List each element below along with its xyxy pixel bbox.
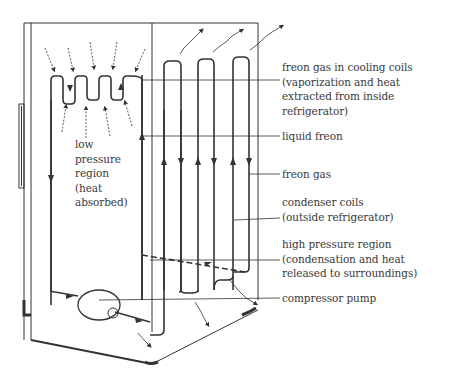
compressor-pump (78, 290, 120, 320)
refrigerator-diagram (0, 0, 449, 368)
label-freon-gas: freon gas (282, 167, 331, 182)
label-liquid-freon: liquid freon (282, 129, 343, 144)
label-high-pressure-region: high pressure region (condensation and h… (282, 237, 417, 281)
suction-line (51, 100, 78, 296)
heat-absorbed-arrows (45, 42, 145, 138)
door-handle (19, 104, 24, 188)
label-low-pressure-region: low pressure region (heat absorbed) (75, 137, 128, 210)
label-condenser-coils: condenser coils (outside refrigerator) (282, 195, 394, 224)
label-compressor-pump: compressor pump (282, 291, 376, 306)
label-cooling-coils: freon gas in cooling coils (vaporization… (282, 60, 412, 118)
cabinet-outline (24, 23, 258, 364)
